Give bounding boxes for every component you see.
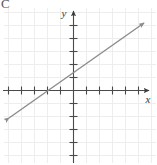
graph-figure: C	[0, 0, 157, 165]
x-axis: x	[3, 87, 151, 106]
x-axis-label: x	[145, 93, 151, 105]
coordinate-plane-plot: x y	[0, 0, 157, 165]
y-axis: y	[61, 7, 78, 163]
y-axis-label: y	[61, 7, 67, 19]
